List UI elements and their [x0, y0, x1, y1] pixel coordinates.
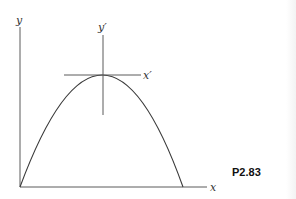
y-axis-label: y	[15, 14, 23, 27]
y-prime-label: y′	[97, 21, 107, 34]
x-axis-label: x	[210, 181, 217, 194]
x-prime-label: x′	[143, 69, 152, 82]
parabola-diagram: y x y′ x′ P2.83	[0, 0, 296, 199]
parabola-curve	[20, 75, 183, 187]
page-edge-shading	[286, 0, 296, 199]
problem-label: P2.83	[232, 166, 261, 178]
